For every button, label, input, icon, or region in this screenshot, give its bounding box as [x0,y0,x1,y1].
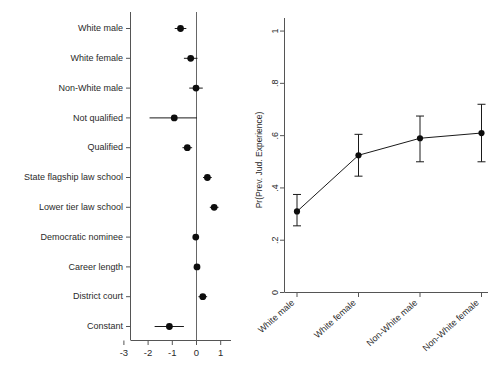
predicted-probability-y-tick-label: .4 [270,184,280,192]
predicted-probability-y-ticks [280,31,285,292]
predicted-probability-point-estimate [417,135,423,141]
predicted-probability-category-label: Non-White female [421,298,481,354]
predicted-probability-y-tick-label: 1 [270,29,280,34]
predicted-probability-x-ticks [297,293,482,298]
predicted-probability-y-tick-label: .8 [270,80,280,88]
predicted-probability-panel: Pr(Prev. Jud. Experience) 0.2.4.6.81 Whi… [0,0,492,370]
predicted-probability-point-estimate [355,152,361,158]
predicted-probability-y-axis-label: Pr(Prev. Jud. Experience) [254,111,264,208]
predicted-probability-category-label: Non-White male [365,298,420,349]
predicted-probability-y-tick-labels: 0.2.4.6.81 [270,29,280,295]
predicted-probability-category-labels: White maleWhite femaleNon-White maleNon-… [256,298,481,354]
predicted-probability-y-tick-label: .2 [270,236,280,244]
predicted-probability-category-label: White female [312,298,358,341]
predicted-probability-point-estimate [478,130,484,136]
predicted-probability-line [297,133,482,211]
predicted-probability-svg: Pr(Prev. Jud. Experience) 0.2.4.6.81 Whi… [0,0,492,370]
predicted-probability-category-label: White male [256,298,296,336]
predicted-probability-y-tick-label: .6 [270,132,280,140]
figure-root: White maleWhite femaleNon-White maleNot … [0,0,492,370]
predicted-probability-series [293,104,486,226]
predicted-probability-point-estimate [294,208,300,214]
predicted-probability-y-tick-label: 0 [270,290,280,295]
